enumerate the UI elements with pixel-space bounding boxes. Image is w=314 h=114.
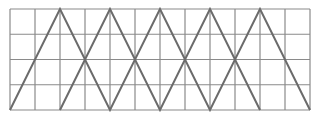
grid-diagram <box>0 0 314 114</box>
grid-lines <box>10 9 310 110</box>
